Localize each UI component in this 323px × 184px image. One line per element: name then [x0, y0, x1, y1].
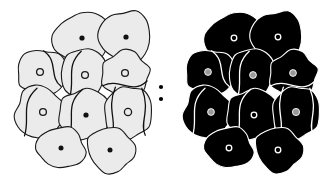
cell-nucleus [205, 69, 212, 76]
cell-nucleus [290, 70, 297, 77]
cell-comparison-figure [0, 0, 323, 184]
cell-nucleus [292, 108, 299, 115]
right-cluster [0, 0, 323, 184]
cell-nucleus [208, 109, 215, 116]
cell-nucleus [250, 72, 257, 79]
